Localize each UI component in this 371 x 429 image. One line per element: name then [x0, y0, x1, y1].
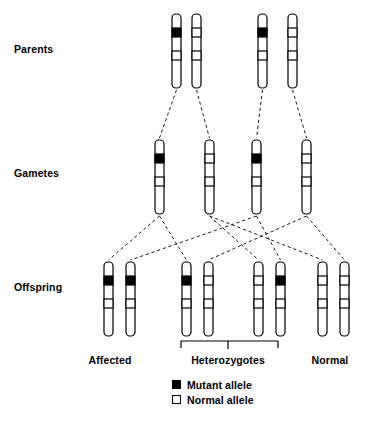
mutant-allele-band — [155, 154, 164, 163]
centromere-band — [155, 177, 164, 186]
offspring-chromosome — [126, 262, 135, 336]
normal-allele-band — [204, 276, 213, 285]
offspring-chromosome — [340, 262, 349, 336]
centromere-band — [204, 299, 213, 308]
gamete-chromosome — [205, 140, 214, 214]
inheritance-diagram: Parents Gametes Offspring Affected Heter… — [0, 0, 371, 429]
offspring-chromosome — [204, 262, 213, 336]
gamete-offspring-connector — [307, 216, 345, 260]
parent-gamete-connector — [293, 90, 307, 138]
row-label-offspring: Offspring — [14, 281, 62, 293]
centromere-band — [276, 299, 285, 308]
gamete-offspring-connector — [131, 216, 257, 260]
mutant-allele-band — [258, 28, 267, 37]
parent-chromosome — [258, 14, 267, 88]
offspring-chromosome — [104, 262, 113, 336]
group-label-affected: Affected — [78, 354, 142, 366]
centromere-band — [254, 299, 263, 308]
mutant-allele-band — [126, 276, 135, 285]
parent-gamete-connector — [197, 90, 210, 138]
normal-allele-band — [192, 28, 201, 37]
centromere-band — [302, 177, 311, 186]
mutant-allele-band — [172, 28, 181, 37]
allele-legend: Mutant allele Normal allele — [172, 377, 254, 407]
chromosome-shapes — [104, 14, 349, 336]
gamete-chromosome — [155, 140, 164, 214]
offspring-chromosome — [276, 262, 285, 336]
centromere-band — [318, 299, 327, 308]
centromere-band — [182, 299, 191, 308]
gamete-offspring-connector — [209, 216, 307, 260]
centromere-band — [340, 299, 349, 308]
centromere-band — [104, 299, 113, 308]
legend-label-normal: Normal allele — [187, 394, 254, 406]
centromere-band — [258, 51, 267, 60]
normal-allele-band — [288, 28, 297, 37]
empty-square-icon — [172, 395, 181, 404]
centromere-band — [172, 51, 181, 60]
parent-gamete-connector — [257, 90, 263, 138]
centromere-band — [192, 51, 201, 60]
parent-chromosome — [192, 14, 201, 88]
offspring-chromosome — [254, 262, 263, 336]
mutant-allele-band — [104, 276, 113, 285]
gamete-offspring-connector — [160, 216, 187, 260]
filled-square-icon — [172, 380, 181, 389]
row-label-parents: Parents — [14, 43, 53, 55]
centromere-band — [205, 177, 214, 186]
group-label-normal: Normal — [302, 354, 358, 366]
centromere-band — [252, 177, 261, 186]
normal-allele-band — [205, 154, 214, 163]
legend-item-normal: Normal allele — [172, 392, 254, 407]
group-label-heterozygotes: Heterozygotes — [170, 354, 286, 366]
offspring-chromosome — [318, 262, 327, 336]
gamete-chromosome — [302, 140, 311, 214]
normal-allele-band — [318, 276, 327, 285]
mutant-allele-band — [182, 276, 191, 285]
row-label-gametes: Gametes — [14, 167, 59, 179]
mutant-allele-band — [252, 154, 261, 163]
centromere-band — [288, 51, 297, 60]
gamete-offspring-connector — [210, 216, 323, 260]
offspring-chromosome — [182, 262, 191, 336]
bracket-span — [181, 341, 278, 348]
parent-chromosome — [172, 14, 181, 88]
normal-allele-band — [254, 276, 263, 285]
parent-chromosome — [288, 14, 297, 88]
legend-label-mutant: Mutant allele — [187, 379, 252, 391]
legend-item-mutant: Mutant allele — [172, 377, 254, 392]
parent-gamete-connector — [160, 90, 177, 138]
normal-allele-band — [302, 154, 311, 163]
heterozygotes-bracket — [181, 341, 278, 349]
gamete-offspring-connector — [109, 216, 160, 260]
gamete-offspring-connector — [257, 216, 281, 260]
mutant-allele-band — [276, 276, 285, 285]
gamete-offspring-connector — [210, 216, 259, 260]
normal-allele-band — [340, 276, 349, 285]
gamete-chromosome — [252, 140, 261, 214]
centromere-band — [126, 299, 135, 308]
